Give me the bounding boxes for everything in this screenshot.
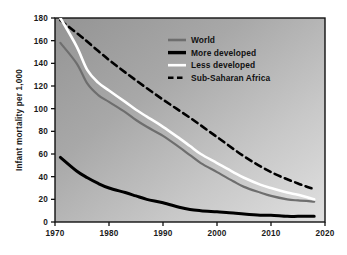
legend-label-less-developed: Less developed xyxy=(191,60,255,70)
y-axis-tick-label: 100 xyxy=(34,105,49,114)
y-axis-tick-label: 0 xyxy=(43,218,48,227)
y-axis-tick-label: 160 xyxy=(34,37,49,46)
y-axis-tick-label: 120 xyxy=(34,82,49,91)
x-axis-tick-label: 1990 xyxy=(153,229,172,238)
legend-label-sub-saharan-africa: Sub-Saharan Africa xyxy=(191,73,270,83)
infant-mortality-line-chart: 020406080100120140160180 197019801990200… xyxy=(0,0,347,255)
y-axis-title: Infant mortality per 1,000 xyxy=(15,69,24,171)
x-axis-tick-label: 1970 xyxy=(45,229,64,238)
x-axis-tick-label: 2010 xyxy=(261,229,280,238)
y-axis-tick-label: 60 xyxy=(38,150,48,159)
chart-figure: 020406080100120140160180 197019801990200… xyxy=(0,0,347,255)
y-axis-tick-label: 40 xyxy=(38,173,48,182)
y-axis-tick-label: 20 xyxy=(38,195,48,204)
y-axis-tick-label: 180 xyxy=(34,14,49,23)
y-axis-tick-label: 140 xyxy=(34,59,49,68)
y-axis-tick-label: 80 xyxy=(38,127,48,136)
legend-label-world: World xyxy=(191,35,215,45)
x-axis-tick-label: 2000 xyxy=(207,229,226,238)
legend-label-more-developed: More developed xyxy=(191,48,256,58)
x-axis-tick-label: 1980 xyxy=(99,229,118,238)
x-axis-tick-label: 2020 xyxy=(315,229,334,238)
